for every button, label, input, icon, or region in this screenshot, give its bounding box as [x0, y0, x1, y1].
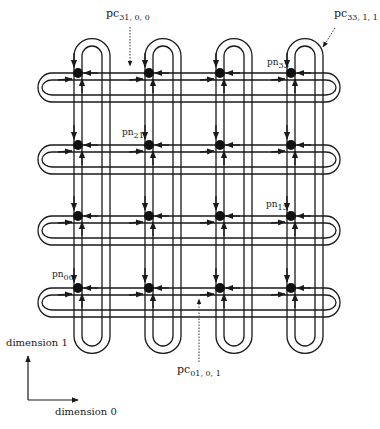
node-pn22	[215, 140, 225, 150]
column-ring-inner	[82, 46, 102, 346]
label-pc-01-0-1: pc01, 0, 1	[177, 364, 221, 378]
column-ring-outer	[74, 39, 110, 354]
column-ring-inner	[153, 46, 173, 346]
label-pn-00: pn00	[52, 270, 74, 282]
node-pn21	[144, 140, 154, 150]
row-ring-inner	[42, 80, 336, 95]
label-pc-31-0-0: pc31, 0, 0	[106, 8, 150, 22]
column-ring-outer	[145, 39, 181, 354]
node-pn10	[73, 211, 83, 221]
node-pn03	[286, 283, 296, 293]
label-pn-33: pn33	[267, 58, 289, 70]
node-pn31	[144, 68, 154, 78]
label-pn-21: pn21	[122, 128, 144, 140]
node-pn12	[215, 211, 225, 221]
column-ring-inner	[224, 46, 244, 346]
label-pointers	[130, 27, 335, 362]
row-ring-inner	[42, 152, 336, 167]
row-ring-inner	[42, 295, 336, 310]
label-pc-33-1-1: pc33, 1, 1	[334, 8, 378, 22]
row-ring-inner	[42, 223, 336, 238]
label-pn-13: pn13	[266, 200, 288, 212]
pointer-pc-33-1-1	[323, 28, 335, 47]
node-pn00	[73, 283, 83, 293]
node-pn13	[286, 211, 296, 221]
channel-arrows	[58, 53, 311, 308]
node-pn02	[215, 283, 225, 293]
node-pn01	[144, 283, 154, 293]
label-dimension-1: dimension 1	[6, 338, 68, 348]
node-pn23	[286, 140, 296, 150]
column-ring-outer	[287, 39, 323, 354]
column-ring-inner	[295, 46, 315, 346]
label-dimension-0: dimension 0	[55, 407, 117, 417]
column-ring-outer	[216, 39, 252, 354]
node-pn30	[73, 68, 83, 78]
node-pn20	[73, 140, 83, 150]
node-pn32	[215, 68, 225, 78]
node-pn11	[144, 211, 154, 221]
axis-indicator	[28, 356, 78, 400]
